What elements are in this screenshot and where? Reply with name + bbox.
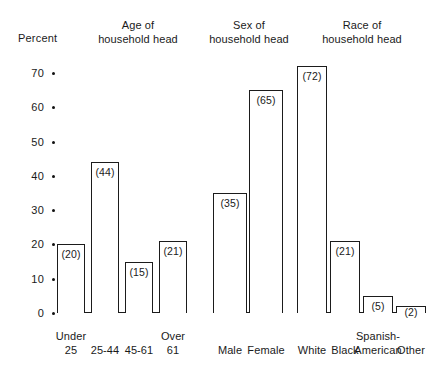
y-axis-tick: 60 bbox=[0, 101, 62, 113]
y-axis-tick: 0 bbox=[0, 307, 62, 319]
bar-value-label: (21) bbox=[331, 245, 359, 257]
bar-value-label: (35) bbox=[214, 197, 246, 209]
y-axis-tick-label: 70 bbox=[31, 67, 44, 79]
y-axis-tick-dot bbox=[52, 243, 55, 246]
y-axis-tick-label: 60 bbox=[31, 101, 44, 113]
y-axis-tick-dot bbox=[52, 106, 55, 109]
y-axis-tick-label: 50 bbox=[31, 136, 44, 148]
category-label-line: Other bbox=[371, 343, 444, 357]
bar-value-label: (15) bbox=[126, 266, 152, 278]
y-axis-tick: 50 bbox=[0, 136, 62, 148]
bar-group: WhiteBlackSpanish-AmericanOther(72)(21)(… bbox=[297, 0, 426, 371]
y-axis-tick: 40 bbox=[0, 170, 62, 182]
y-axis-tick: 70 bbox=[0, 67, 62, 79]
bar[interactable]: (20) bbox=[57, 244, 85, 313]
y-axis-tick-dot bbox=[52, 175, 55, 178]
y-axis-tick-label: 0 bbox=[38, 307, 44, 319]
bars: (72)(21)(5)(2) bbox=[297, 65, 426, 313]
y-axis-tick-dot bbox=[52, 141, 55, 144]
y-axis-tick-label: 10 bbox=[31, 273, 44, 285]
y-axis-tick: 30 bbox=[0, 204, 62, 216]
y-axis-tick-dot bbox=[52, 209, 55, 212]
category-label-line: Spanish- bbox=[338, 329, 418, 343]
y-axis-tick-label: 20 bbox=[31, 238, 44, 250]
y-axis-tick: 10 bbox=[0, 273, 62, 285]
bar[interactable]: (2) bbox=[396, 306, 426, 313]
bar[interactable]: (65) bbox=[249, 90, 283, 313]
bar-value-label: (2) bbox=[397, 306, 425, 318]
bar-value-label: (65) bbox=[250, 94, 282, 106]
y-axis-tick-dot bbox=[52, 72, 55, 75]
y-axis-tick-label: 30 bbox=[31, 204, 44, 216]
bar-value-label: (44) bbox=[92, 166, 118, 178]
bar-value-label: (20) bbox=[58, 248, 84, 260]
bar-chart: Percent 706050403020100 Age ofhousehold … bbox=[0, 0, 444, 371]
bar[interactable]: (21) bbox=[159, 241, 187, 313]
category-label-line: Over bbox=[133, 329, 213, 343]
y-axis-tick: 20 bbox=[0, 238, 62, 250]
bar-value-label: (21) bbox=[160, 245, 186, 257]
category-label: Other bbox=[371, 343, 444, 357]
y-axis-tick-dot bbox=[52, 312, 55, 315]
bar-group: MaleFemale(35)(65) bbox=[213, 0, 283, 371]
bars: (20)(44)(15)(21) bbox=[57, 65, 187, 313]
bar-group: Under2525-4445-61Over61(20)(44)(15)(21) bbox=[57, 0, 187, 371]
y-axis-tick-dot bbox=[52, 278, 55, 281]
bar-value-label: (5) bbox=[364, 300, 392, 312]
bar[interactable]: (5) bbox=[363, 296, 393, 313]
category-label-line: Under bbox=[31, 329, 111, 343]
bar[interactable]: (72) bbox=[297, 66, 327, 313]
y-axis-tick-label: 40 bbox=[31, 170, 44, 182]
bar[interactable]: (35) bbox=[213, 193, 247, 313]
bar[interactable]: (21) bbox=[330, 241, 360, 313]
bars: (35)(65) bbox=[213, 65, 283, 313]
bar[interactable]: (44) bbox=[91, 162, 119, 313]
bar-value-label: (72) bbox=[298, 70, 326, 82]
bar[interactable]: (15) bbox=[125, 262, 153, 313]
